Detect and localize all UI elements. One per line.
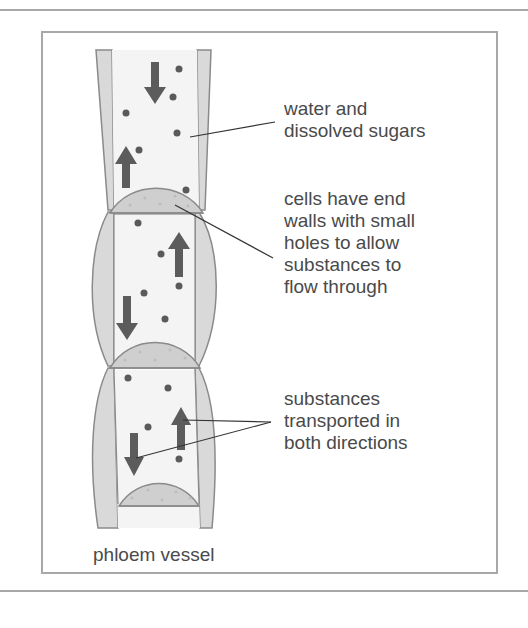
- label-water-and-sugars: water and dissolved sugars: [284, 98, 426, 142]
- label-end-walls: cells have end walls with small holes to…: [284, 188, 415, 298]
- cell-lumens: [112, 50, 200, 528]
- label-both-directions: substances transported in both direction…: [284, 388, 408, 454]
- figure-caption: phloem vessel: [93, 544, 214, 566]
- phloem-vessel-diagram: [0, 0, 528, 628]
- bottom-rule: [0, 590, 528, 592]
